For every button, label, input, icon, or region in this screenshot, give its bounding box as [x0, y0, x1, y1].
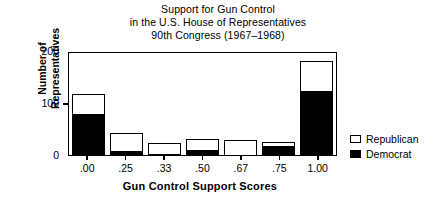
stacked-bar	[72, 94, 105, 155]
bar-segment-democrat	[149, 154, 180, 155]
bar-slot	[107, 53, 145, 155]
stacked-bar	[186, 139, 219, 155]
legend-item-label: Democrat	[366, 148, 412, 160]
chart-figure: Support for Gun Control in the U.S. Hous…	[0, 0, 436, 206]
x-axis-tick-mark	[279, 156, 281, 160]
bar-slot	[260, 53, 298, 155]
plot-area	[68, 52, 337, 156]
bar-segment-republican	[301, 62, 332, 90]
stacked-bar	[110, 133, 143, 155]
x-axis-tick-label: .50	[183, 162, 221, 174]
bar-slot	[69, 53, 107, 155]
x-axis-tick-mark	[317, 156, 319, 160]
bar-group	[69, 53, 336, 155]
stacked-bar	[300, 61, 333, 155]
x-axis-title: Gun Control Support Scores	[40, 180, 360, 192]
bar-segment-democrat	[263, 146, 294, 155]
stacked-bar	[148, 143, 181, 155]
chart-legend: RepublicanDemocrat	[350, 131, 419, 161]
x-axis-tick-label: .25	[106, 162, 144, 174]
bar-segment-democrat	[111, 151, 142, 155]
bar-slot	[222, 53, 260, 155]
x-axis-tick-label: .75	[260, 162, 298, 174]
x-axis-tick-mark	[202, 156, 204, 160]
x-axis-tick-mark	[125, 156, 127, 160]
bar-segment-republican	[111, 134, 142, 151]
legend-item: Republican	[350, 131, 419, 146]
bar-slot	[145, 53, 183, 155]
x-axis-tick-mark	[163, 156, 165, 160]
bar-slot	[298, 53, 336, 155]
legend-item-label: Republican	[366, 133, 419, 145]
y-axis-tick-label: 0	[53, 149, 59, 161]
x-axis-labels: .00.25.33.50.67.751.00	[68, 162, 337, 174]
bar-segment-republican	[187, 140, 218, 150]
y-axis: 0100200	[0, 0, 68, 206]
x-axis-tick-label: .67	[222, 162, 260, 174]
bar-segment-republican	[225, 141, 256, 155]
stacked-bar	[262, 142, 295, 155]
x-axis-tick-label: .33	[145, 162, 183, 174]
x-axis-tick-label: .00	[68, 162, 106, 174]
bar-slot	[183, 53, 221, 155]
legend-item: Democrat	[350, 146, 419, 161]
x-axis-tick-mark	[240, 156, 242, 160]
hollow-square-icon	[350, 135, 361, 143]
y-axis-tick-label: 100	[41, 97, 59, 109]
bar-segment-democrat	[301, 91, 332, 155]
filled-square-icon	[350, 150, 361, 158]
stacked-bar	[224, 140, 257, 155]
x-axis-tick-mark	[86, 156, 88, 160]
x-axis-tick-label: 1.00	[299, 162, 337, 174]
bar-segment-republican	[149, 144, 180, 155]
bar-segment-democrat	[73, 114, 104, 155]
bar-segment-democrat	[187, 150, 218, 155]
y-axis-tick-label: 200	[41, 45, 59, 57]
bar-segment-republican	[73, 95, 104, 114]
